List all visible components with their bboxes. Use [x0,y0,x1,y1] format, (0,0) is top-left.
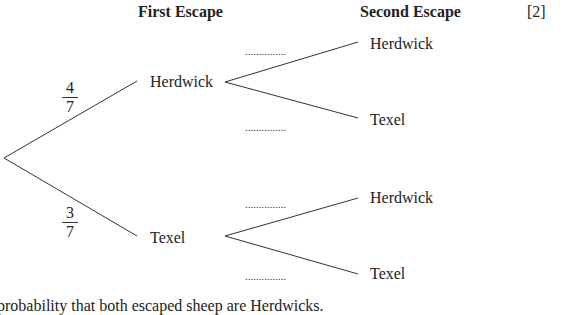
second-herdwick-after-texel-label: Herdwick [370,189,433,207]
first-texel-label: Texel [150,229,185,247]
second-escape-heading: Second Escape [360,3,461,21]
answer-blank-herdwick-herdwick[interactable]: ............... [245,45,286,57]
numerator: 3 [62,205,78,221]
answer-blank-texel-herdwick[interactable]: ............... [245,198,286,210]
denominator: 7 [62,99,78,115]
branch-herdwick-texel [225,82,358,118]
answer-blank-herdwick-texel[interactable]: ............... [245,121,286,133]
marks-label: [2] [527,3,546,21]
first-escape-heading: First Escape [138,3,223,21]
first-herdwick-label: Herdwick [150,73,213,91]
answer-blank-texel-texel[interactable]: ............... [245,270,286,282]
second-texel-after-herdwick-label: Texel [370,111,405,129]
question-text-footer: probability that both escaped sheep are … [0,297,324,315]
numerator: 4 [62,80,78,96]
second-texel-after-texel-label: Texel [370,265,405,283]
denominator: 7 [62,224,78,240]
probability-first-texel: 3 7 [62,205,78,240]
probability-first-herdwick: 4 7 [62,80,78,115]
second-herdwick-after-herdwick-label: Herdwick [370,35,433,53]
branch-texel-texel [225,236,358,274]
